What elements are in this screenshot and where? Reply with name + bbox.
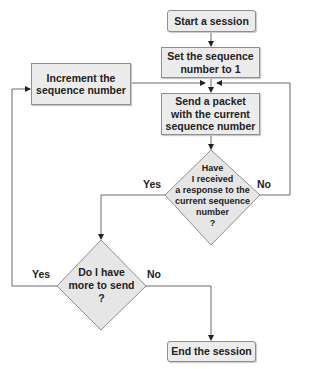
more-to-send-label: Do I have more to send ?: [69, 266, 135, 305]
send-packet-label: Send a packet with the current sequence …: [166, 95, 256, 133]
send-packet-node: Send a packet with the current sequence …: [161, 93, 260, 135]
received-yes-label: Yes: [143, 178, 161, 190]
increment-sequence-node: Increment the sequence number: [31, 63, 131, 105]
increment-sequence-label: Increment the sequence number: [36, 72, 126, 97]
more-yes-label: Yes: [32, 268, 50, 280]
set-sequence-node: Set the sequence number to 1: [161, 47, 260, 78]
received-response-question: Have I received a response to the curren…: [165, 160, 260, 232]
received-response-label: Have I received a response to the curren…: [175, 163, 250, 229]
end-session-node: End the session: [167, 341, 256, 362]
received-no-label: No: [257, 178, 271, 190]
more-no-label: No: [147, 268, 161, 280]
start-session-label: Start a session: [174, 15, 249, 28]
set-sequence-label: Set the sequence number to 1: [167, 50, 253, 75]
end-session-label: End the session: [171, 345, 252, 358]
more-to-send-question: Do I have more to send ?: [57, 263, 146, 307]
start-session-node: Start a session: [167, 10, 256, 32]
